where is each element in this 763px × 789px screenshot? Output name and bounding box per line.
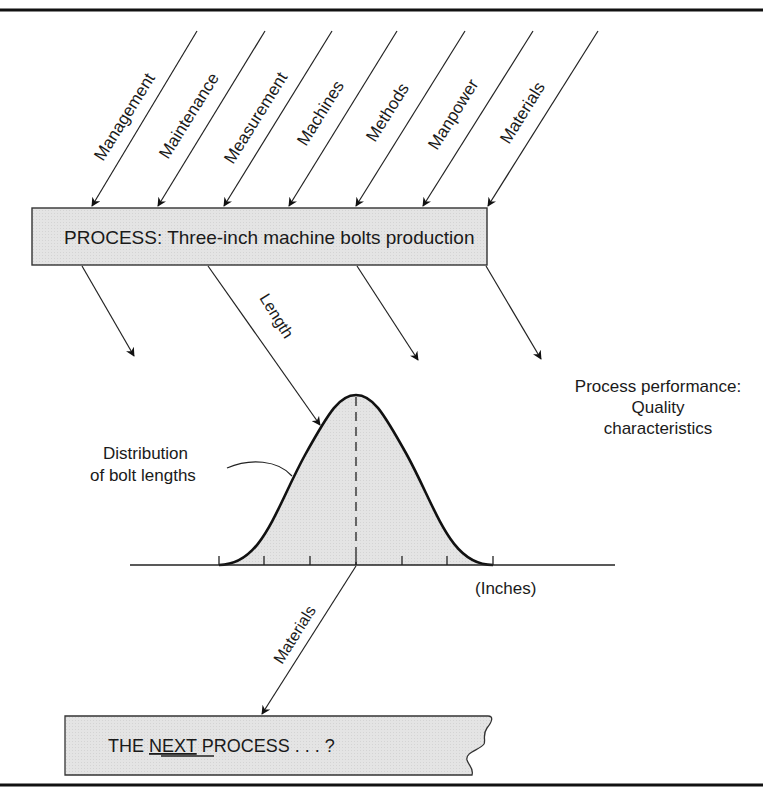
output-arrow-3 (357, 266, 418, 360)
process-diagram: Management Maintenance Measurement Machi… (0, 0, 763, 789)
input-label-machines: Machines (293, 77, 348, 149)
materials-out-arrow (262, 566, 356, 714)
input-labels: Management Maintenance Measurement Machi… (90, 69, 549, 167)
next-process-suffix: PROCESS . . . ? (197, 736, 335, 756)
distribution-label-2: of bolt lengths (90, 466, 196, 485)
distribution-callout: Distribution of bolt lengths (90, 444, 292, 485)
input-label-management: Management (90, 70, 159, 164)
output-arrow-1 (82, 266, 134, 356)
performance-line-1: Process performance: (575, 377, 741, 396)
input-label-methods: Methods (362, 80, 413, 145)
output-arrow-4 (486, 266, 541, 359)
performance-line-3: characteristics (604, 419, 713, 438)
performance-line-2: Quality (632, 398, 685, 417)
distribution-label-1: Distribution (103, 444, 188, 463)
input-label-measurement: Measurement (220, 69, 291, 167)
length-label: Length (256, 291, 296, 342)
callout-leader (227, 462, 292, 476)
next-process-prefix: THE (108, 736, 149, 756)
arrow-materials-in (488, 31, 598, 206)
distribution-chart: (Inches) (130, 395, 615, 598)
output-arrows (82, 266, 541, 425)
materials-out-label: Materials (270, 603, 319, 667)
output-arrow-length (208, 266, 320, 425)
input-label-materials: Materials (496, 79, 549, 148)
next-process-box: THE NEXT PROCESS . . . ? (65, 716, 492, 775)
input-label-manpower: Manpower (424, 75, 482, 153)
process-box: PROCESS: Three-inch machine bolts produc… (32, 208, 487, 265)
next-process-emphasis: NEXT (149, 736, 197, 756)
axis-unit-label: (Inches) (475, 579, 536, 598)
next-process-label: THE NEXT PROCESS . . . ? (108, 736, 335, 756)
process-box-label: PROCESS: Three-inch machine bolts produc… (64, 227, 474, 248)
performance-label: Process performance: Quality characteris… (575, 377, 741, 438)
